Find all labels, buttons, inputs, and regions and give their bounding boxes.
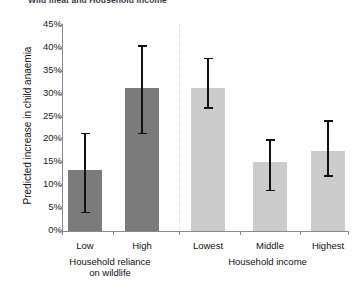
y-axis-title: Predicted increase in child anaemia <box>22 11 33 241</box>
bar-lowest <box>191 88 225 231</box>
error-cap-upper <box>204 58 213 59</box>
x-axis-tick-mark <box>348 231 349 235</box>
x-axis-label-lowest: Lowest <box>173 240 243 251</box>
error-bar-highest <box>327 120 328 175</box>
error-bar-lowest <box>207 58 208 107</box>
x-axis-tick-mark <box>113 231 114 235</box>
x-axis-label-high: High <box>107 240 177 251</box>
y-axis-tick-label: 40% <box>43 41 62 52</box>
y-axis-tick-label: 35% <box>43 64 62 75</box>
y-axis-tick-label: 20% <box>43 132 62 143</box>
y-axis-tick-label: 5% <box>48 201 62 212</box>
group-label-line: Household reliance <box>45 256 175 267</box>
y-axis-tick-label: 15% <box>43 155 62 166</box>
x-axis-label-highest: Highest <box>293 240 360 251</box>
x-axis-tick-mark <box>179 231 180 235</box>
chart-plot-area: Predicted increase in child anaemia 0%5%… <box>0 0 360 296</box>
error-cap-lower <box>266 190 275 191</box>
group-label-income: Household income <box>185 256 350 267</box>
y-axis-line <box>62 24 63 232</box>
x-axis-tick-mark <box>62 231 63 235</box>
error-bar-high <box>141 45 142 133</box>
group-label-reliance: Household relianceon wildlife <box>45 256 175 278</box>
error-cap-lower <box>138 133 147 134</box>
y-axis-tick-label: 30% <box>43 87 62 98</box>
error-cap-upper <box>324 120 333 121</box>
y-axis-tick-label: 10% <box>43 178 62 189</box>
error-cap-lower <box>204 107 213 108</box>
group-label-line: on wildlife <box>45 267 175 278</box>
y-axis-tick-label: 45% <box>43 18 62 29</box>
group-divider <box>179 24 180 232</box>
error-bar-middle <box>269 139 270 189</box>
x-axis-tick-mark <box>300 231 301 235</box>
error-cap-upper <box>138 45 147 46</box>
y-axis-tick-label: 0% <box>48 224 62 235</box>
error-cap-upper <box>266 139 275 140</box>
error-cap-upper <box>81 133 90 134</box>
group-label-line: Household income <box>185 256 350 267</box>
y-axis-tick-label: 25% <box>43 110 62 121</box>
x-axis-tick-mark <box>240 231 241 235</box>
error-bar-low <box>84 133 85 212</box>
x-axis-line <box>62 231 348 232</box>
error-cap-lower <box>324 175 333 176</box>
error-cap-lower <box>81 212 90 213</box>
